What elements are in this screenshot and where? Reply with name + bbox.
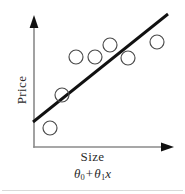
x-axis-label: Size bbox=[0, 149, 185, 165]
formula-theta-1-symbol: θ bbox=[94, 166, 101, 181]
formula-plus-operator: + bbox=[85, 166, 95, 181]
data-point-marker bbox=[103, 38, 117, 52]
data-point-marker bbox=[69, 50, 83, 64]
formula-x-variable: x bbox=[105, 166, 111, 181]
hypothesis-formula: θ0+θ1x bbox=[0, 166, 185, 182]
regression-fit-line bbox=[33, 14, 168, 122]
data-point-marker bbox=[121, 51, 135, 65]
figure-root: Price Size θ0+θ1x bbox=[0, 0, 185, 194]
data-point-marker bbox=[43, 121, 57, 135]
data-point-marker bbox=[150, 35, 164, 49]
data-point-marker bbox=[88, 50, 102, 64]
y-axis-arrowhead bbox=[30, 15, 39, 28]
data-points-group bbox=[43, 35, 164, 135]
y-axis-label: Price bbox=[0, 68, 52, 112]
